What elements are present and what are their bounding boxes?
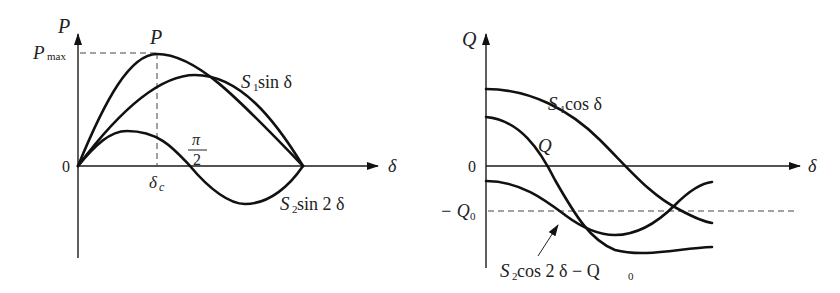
s2-cos2-label: S 2 cos 2 δ − Q 0 [500, 260, 634, 282]
svg-text:S: S [280, 193, 290, 214]
pi-over-2-label: π 2 [188, 131, 207, 168]
svg-text:S: S [241, 71, 251, 92]
svg-text:sin 2 δ: sin 2 δ [297, 194, 345, 214]
right-plot: Q 0 − Q 0 S 1 cos δ Q S 2 cos 2 δ − Q 0 … [440, 28, 817, 282]
s2-sin2-label: S 2 sin 2 δ [280, 193, 345, 215]
delta-label-left: δ [388, 156, 397, 176]
svg-text:δ: δ [149, 173, 158, 192]
delta-label-right: δ [808, 156, 817, 176]
diagram-canvas: P P max P 0 δ c π 2 S 1 sin δ S 2 sin 2 … [0, 0, 840, 293]
q-axis-label: Q [462, 28, 477, 50]
delta-c-label: δ c [149, 173, 165, 194]
p-axis-label: P [57, 15, 70, 37]
peak-label: P [149, 26, 162, 48]
pointer-arrow [538, 225, 558, 256]
q-curve-label: Q [538, 135, 552, 156]
svg-text:− Q: − Q [440, 201, 470, 221]
s1-cos-label: S 1 cos δ [548, 93, 602, 115]
svg-text:S: S [500, 260, 510, 281]
svg-text:S: S [548, 93, 558, 114]
curve-p-total [78, 54, 303, 166]
svg-text:c: c [159, 180, 165, 194]
origin-label-right: 0 [468, 158, 476, 175]
svg-text:cos δ: cos δ [565, 94, 602, 114]
curve-s2-sin2 [78, 131, 303, 204]
svg-text:0: 0 [628, 270, 634, 282]
svg-text:2: 2 [193, 151, 201, 168]
svg-text:cos 2 δ − Q: cos 2 δ − Q [517, 261, 600, 281]
svg-text:π: π [192, 131, 201, 148]
origin-label-left: 0 [62, 158, 70, 175]
s1-sin-label: S 1 sin δ [241, 71, 292, 93]
svg-text:P: P [32, 42, 45, 63]
pmax-label: P max [32, 42, 66, 63]
left-plot: P P max P 0 δ c π 2 S 1 sin δ S 2 sin 2 … [32, 15, 397, 258]
svg-text:0: 0 [470, 210, 476, 222]
q0-label: − Q 0 [440, 201, 476, 222]
svg-text:sin δ: sin δ [258, 72, 292, 92]
svg-text:max: max [47, 50, 66, 62]
